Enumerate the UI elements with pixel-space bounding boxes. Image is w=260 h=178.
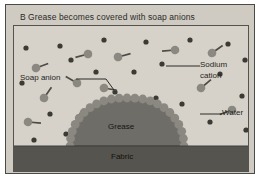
sodium-cation bbox=[101, 37, 106, 42]
sodium-cation bbox=[47, 111, 52, 116]
figure-panel-b: B Grease becomes covered with soap anion… bbox=[0, 0, 260, 178]
sodium-cation bbox=[225, 41, 230, 46]
soap-anion-head bbox=[179, 134, 188, 143]
panel-letter: B bbox=[12, 12, 28, 22]
sodium-cation bbox=[23, 45, 28, 50]
panel-frame: B Grease becomes covered with soap anion… bbox=[5, 4, 255, 174]
sodium-cation bbox=[159, 61, 164, 66]
label-soap-anion: Soap anion bbox=[20, 73, 60, 83]
diagram-scene: Soap anion Sodium cation Water Grease Fa… bbox=[13, 25, 249, 172]
caption-text: Grease becomes covered with soap anions bbox=[28, 12, 195, 22]
label-sodium-cation-line2: cation bbox=[200, 71, 221, 81]
sodium-cation bbox=[239, 93, 244, 98]
soap-anion-head bbox=[115, 94, 124, 103]
label-fabric: Fabric bbox=[111, 152, 133, 162]
label-grease: Grease bbox=[108, 122, 134, 132]
sodium-cation bbox=[207, 119, 212, 124]
sodium-cation bbox=[179, 101, 184, 106]
soap-anion-head bbox=[99, 97, 108, 106]
sodium-cation bbox=[242, 57, 247, 62]
label-water: Water bbox=[222, 108, 243, 118]
soap-anion-head bbox=[107, 95, 116, 104]
sodium-cation bbox=[143, 39, 148, 44]
sodium-cation bbox=[68, 57, 73, 62]
sodium-cation bbox=[93, 69, 98, 74]
soap-anion-head bbox=[123, 94, 132, 103]
label-sodium-cation-line1: Sodium bbox=[200, 60, 227, 70]
sodium-cation bbox=[131, 69, 136, 74]
sodium-cation bbox=[187, 37, 192, 42]
panel-caption: B Grease becomes covered with soap anion… bbox=[12, 8, 254, 25]
soap-anion-head bbox=[131, 94, 140, 103]
sodium-cation bbox=[57, 43, 62, 48]
sodium-cation bbox=[31, 137, 36, 142]
soap-anion-head bbox=[138, 95, 147, 104]
